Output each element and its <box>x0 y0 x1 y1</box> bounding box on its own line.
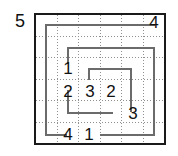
spiral-segment-bottom-outer-right <box>100 134 155 136</box>
clue-right-lower: 3 <box>125 105 141 122</box>
clue-mid-left-upper: 1 <box>60 60 76 77</box>
clue-bottom-left: 4 <box>60 126 76 143</box>
spiral-segment-top-outer <box>45 24 155 26</box>
spiral-segment-top-inner <box>88 68 132 70</box>
spiral-segment-left-outer <box>45 24 47 136</box>
clue-top-right: 4 <box>146 14 162 31</box>
puzzle-canvas: 5 4 1 2 3 2 3 4 1 <box>0 0 178 156</box>
spiral-segment-bottom-second <box>67 112 113 114</box>
spiral-segment-left-inner <box>88 68 90 80</box>
gridline-horizontal-3 <box>36 79 164 80</box>
gridline-horizontal-4 <box>36 100 164 101</box>
clue-bottom-second: 1 <box>81 126 97 143</box>
clue-outside-left: 5 <box>12 12 28 30</box>
spiral-segment-right-outer <box>153 47 155 136</box>
gridline-horizontal-5 <box>36 122 164 123</box>
spiral-segment-inner-join <box>111 112 113 114</box>
clue-center-left: 2 <box>60 83 76 100</box>
clue-center-right: 2 <box>103 83 119 100</box>
gridline-horizontal-2 <box>36 57 164 58</box>
gridline-horizontal-1 <box>36 36 164 37</box>
spiral-segment-top-second <box>67 47 155 49</box>
clue-center: 3 <box>82 83 98 100</box>
